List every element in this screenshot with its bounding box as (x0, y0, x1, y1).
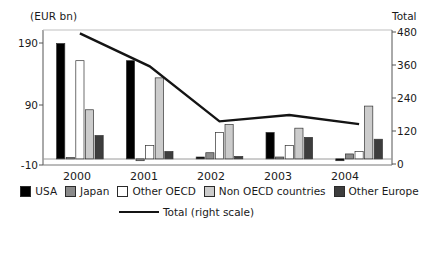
chart-legend: USA Japan Other OECD Non OECD countries … (0, 186, 435, 218)
bar-2004-japan (345, 154, 353, 159)
bar-2004-other-europe (374, 139, 382, 159)
bar-2003-japan (276, 157, 284, 159)
bar-2000-japan (66, 158, 74, 159)
total-line-series (80, 33, 359, 124)
legend-swatch-other-oecd (117, 186, 128, 197)
legend-item-other-europe: Other Europe (334, 186, 419, 197)
bar-2001-other-oecd (146, 145, 154, 159)
bar-2003-non-oecd-countries (295, 128, 303, 159)
bar-2002-usa (196, 157, 204, 159)
bar-2000-other-oecd (76, 61, 84, 159)
bar-2001-usa (126, 61, 134, 159)
bar-2003-usa (266, 132, 274, 158)
bar-2004-non-oecd-countries (365, 106, 373, 159)
legend-label-japan: Japan (80, 186, 109, 197)
chart-figure: (EUR bn) Total 190 90 -10 480 360 240 12… (0, 0, 435, 253)
legend-label-non-oecd: Non OECD countries (219, 186, 326, 197)
bar-2001-japan (136, 159, 144, 161)
legend-label-other-europe: Other Europe (349, 186, 419, 197)
bar-2000-usa (57, 44, 65, 159)
legend-line-swatch-total (119, 211, 159, 213)
legend-label-other-oecd: Other OECD (132, 186, 195, 197)
bar-2001-non-oecd-countries (155, 78, 163, 159)
legend-row-series: USA Japan Other OECD Non OECD countries … (0, 186, 435, 197)
legend-label-usa: USA (35, 186, 57, 197)
bar-2004-other-oecd (355, 152, 363, 159)
legend-item-usa: USA (20, 186, 57, 197)
bar-2003-other-oecd (285, 145, 293, 159)
bar-2000-non-oecd-countries (85, 110, 93, 159)
bar-2002-other-oecd (215, 132, 223, 158)
legend-item-japan: Japan (65, 186, 109, 197)
bar-2002-japan (206, 153, 214, 159)
bar-groups (57, 44, 383, 161)
bar-2002-non-oecd-countries (225, 125, 233, 159)
bar-2004-usa (336, 159, 344, 161)
bar-2002-other-europe (235, 156, 243, 158)
bar-2000-other-europe (95, 136, 103, 159)
legend-row-total: Total (right scale) (0, 207, 435, 218)
legend-swatch-usa (20, 186, 31, 197)
legend-swatch-japan (65, 186, 76, 197)
legend-label-total: Total (right scale) (163, 207, 254, 218)
total-line (80, 33, 359, 124)
legend-item-total: Total (right scale) (119, 207, 254, 218)
legend-item-non-oecd: Non OECD countries (204, 186, 326, 197)
legend-swatch-other-europe (334, 186, 345, 197)
bar-2003-other-europe (304, 137, 312, 158)
legend-swatch-non-oecd (204, 186, 215, 197)
legend-item-other-oecd: Other OECD (117, 186, 195, 197)
bar-2001-other-europe (165, 152, 173, 159)
